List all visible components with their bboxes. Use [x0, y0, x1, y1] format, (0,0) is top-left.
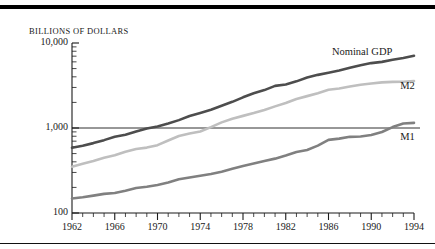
x-tick-label: 1986 — [307, 221, 351, 232]
y-tick-label: 10,000 — [20, 36, 68, 47]
x-tick-label: 1982 — [264, 221, 308, 232]
series-line-m2 — [72, 81, 414, 167]
figure-container: BILLIONS OF DOLLARS 10,0001,000100196219… — [0, 0, 435, 249]
x-tick-label: 1990 — [349, 221, 393, 232]
series-label-nominal-gdp: Nominal GDP — [332, 46, 392, 57]
x-tick-label: 1970 — [136, 221, 180, 232]
x-tick-label: 1994 — [392, 221, 435, 232]
series-line-nominal-gdp — [72, 56, 414, 148]
y-tick-label: 100 — [20, 206, 68, 217]
x-tick-label: 1962 — [50, 221, 94, 232]
bottom-rule — [0, 243, 435, 244]
x-tick-label: 1974 — [178, 221, 222, 232]
x-tick-label: 1978 — [221, 221, 265, 232]
series-label-m1: M1 — [400, 131, 415, 142]
y-tick-label: 1,000 — [20, 121, 68, 132]
x-tick-label: 1966 — [93, 221, 137, 232]
series-label-m2: M2 — [400, 80, 415, 91]
